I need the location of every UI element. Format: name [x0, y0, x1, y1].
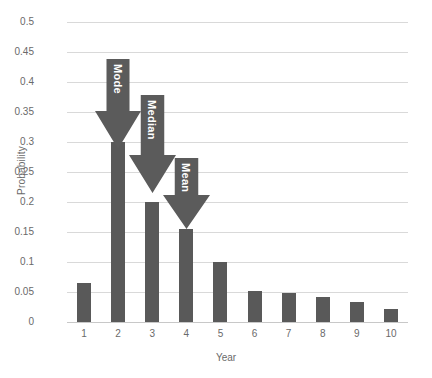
y-axis-tick-label: 0.3	[0, 136, 34, 147]
y-axis-tick-label: 0.1	[0, 256, 34, 267]
x-axis-tick-label: 4	[171, 328, 201, 339]
bar	[350, 302, 364, 322]
y-axis-tick-label: 0.35	[0, 106, 34, 117]
y-axis-tick-label: 0	[0, 316, 34, 327]
bar	[179, 229, 193, 322]
bar	[248, 291, 262, 322]
bar	[77, 283, 91, 322]
probability-bar-chart: Probability 0.50.450.40.350.30.250.20.15…	[0, 0, 432, 378]
x-axis-tick-label: 6	[240, 328, 270, 339]
x-axis-tick-label: 7	[274, 328, 304, 339]
y-axis-tick-label: 0.15	[0, 226, 34, 237]
x-axis-tick-label: 1	[69, 328, 99, 339]
down-arrow-icon: Mean	[163, 158, 210, 229]
x-axis-tick-label: 9	[342, 328, 372, 339]
bar	[111, 142, 125, 322]
y-axis-tick-label: 0.4	[0, 76, 34, 87]
y-axis-tick-label: 0.25	[0, 166, 34, 177]
bar	[145, 202, 159, 322]
bar	[316, 297, 330, 322]
x-axis-tick-label: 3	[137, 328, 167, 339]
y-axis-tick-label: 0.45	[0, 46, 34, 57]
bar	[213, 262, 227, 322]
x-axis-title: Year	[44, 352, 408, 363]
gridline	[67, 322, 408, 323]
x-axis-title-text: Year	[216, 352, 236, 363]
x-axis-tick-label: 2	[103, 328, 133, 339]
y-axis-tick-label: 0.2	[0, 196, 34, 207]
bar	[282, 293, 296, 322]
x-axis-tick-label: 5	[205, 328, 235, 339]
gridline	[67, 22, 408, 23]
y-axis-tick-label: 0.5	[0, 16, 34, 27]
bar	[384, 309, 398, 322]
y-axis-tick-label: 0.05	[0, 286, 34, 297]
x-axis-tick-label: 10	[376, 328, 406, 339]
gridline	[67, 52, 408, 53]
x-axis-tick-label: 8	[308, 328, 338, 339]
